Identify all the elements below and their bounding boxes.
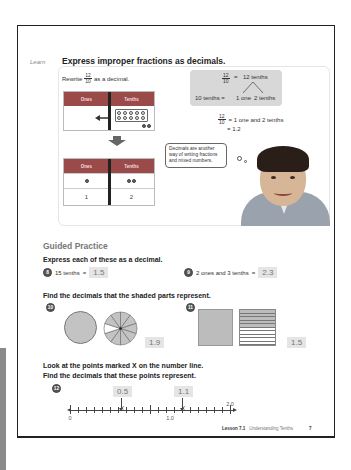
tenth-dot (129, 111, 133, 115)
hair (257, 146, 309, 172)
denominator: 10 (223, 79, 229, 84)
tenth-dot (135, 116, 139, 120)
tenth-strip (240, 342, 275, 346)
tick (214, 407, 215, 413)
tenth-dot (142, 124, 146, 128)
tenth-dot (123, 111, 127, 115)
answer-box[interactable]: 1.9 (145, 337, 164, 348)
instruction-number-line-2: Find the decimals that these points repr… (43, 372, 196, 379)
answer-box[interactable]: 1.1 (174, 386, 193, 397)
tick (174, 407, 175, 413)
thought-bubble: Decimals are another way of writing frac… (165, 143, 227, 168)
tenths-strips (239, 309, 276, 346)
smile (274, 190, 292, 196)
fraction-12-10: 12 10 (218, 114, 226, 125)
equals-sign: = (252, 270, 256, 276)
point-mark-x: X (120, 405, 124, 411)
ones-digit: 1 (64, 189, 109, 205)
header-tenths: Tenths (109, 92, 154, 106)
rewrite-suffix: as a decimal. (94, 76, 129, 82)
question-number-badge: 10 (46, 303, 55, 312)
question-8: 8 15 tenths = 1.5 (43, 267, 108, 278)
eye (271, 176, 276, 179)
whole-square (198, 309, 233, 346)
tick (78, 407, 79, 413)
tick (158, 407, 159, 413)
tick (102, 407, 103, 413)
tick (70, 405, 71, 414)
place-value-chart-top: Ones Tenths (63, 91, 155, 131)
arrow-right-icon (233, 408, 237, 412)
calc-line-2: = 1.2 (227, 126, 283, 132)
tenth-dot (129, 116, 133, 120)
question-number-badge: 8 (43, 268, 52, 277)
tick (206, 407, 207, 413)
question-number-badge: 12 (52, 384, 61, 393)
rewrite-prefix: Rewrite (62, 76, 82, 82)
tenth-dot (132, 179, 136, 183)
calculation: 12 10 = 1 one and 2 tenths = 1.2 (218, 114, 283, 132)
tick (230, 405, 231, 414)
question-text: 15 tenths (55, 270, 80, 276)
page-footer: Lesson 7.1 Understanding Tenths 7 (222, 426, 311, 431)
decimal-point-divider (108, 159, 111, 205)
tenth-dot (147, 124, 151, 128)
answer-box[interactable]: 0.5 (113, 386, 132, 397)
lesson-title: Understanding Tenths (249, 426, 293, 431)
number-bond-box: 12 10 = 12 tenths 10 tenths = 1 one 2 te… (190, 70, 282, 106)
tick (182, 407, 183, 413)
eye (290, 176, 295, 179)
fraction-12-10: 12 10 (222, 73, 230, 84)
bond-branch-left: 1 one (236, 95, 251, 101)
tenth-dot (135, 111, 139, 115)
answer-box[interactable]: 1.5 (287, 337, 306, 348)
calc-line-1: = 1 one and 2 tenths (229, 117, 284, 123)
bond-branch-right: 2 tenths (254, 95, 275, 101)
tick (94, 407, 95, 413)
denominator: 10 (85, 79, 91, 84)
tick (142, 407, 143, 413)
number-line: 0 1.0 2.0 X X (67, 403, 237, 421)
tenths-circle (103, 311, 138, 346)
rewrite-prompt: Rewrite 12 10 as a decimal. (62, 73, 129, 84)
tick (190, 407, 191, 413)
tenth-dot (127, 179, 131, 183)
bond-branches (238, 81, 268, 95)
tick-label-0: 0 (68, 415, 71, 421)
header-ones: Ones (64, 159, 109, 173)
answer-box[interactable]: 1.5 (89, 267, 108, 278)
decimal-point-divider (108, 92, 111, 130)
equals-sign: = (234, 74, 238, 80)
guided-practice-title: Guided Practice (43, 241, 108, 251)
tick (110, 407, 111, 413)
tick (166, 407, 167, 413)
tenth-dot (123, 116, 127, 120)
whole-circle (64, 311, 97, 344)
tick (118, 407, 119, 413)
boy-illustration (238, 142, 330, 226)
instruction-shaded: Find the decimals that the shaded parts … (43, 292, 211, 299)
instruction-express: Express each of these as a decimal. (43, 256, 162, 263)
question-text: 2 ones and 3 tenths (196, 270, 249, 276)
lesson-objective-title: Express improper fractions as decimals. (62, 56, 225, 66)
tick (126, 407, 127, 413)
chapter-side-tab (0, 348, 6, 470)
tenth-dot (117, 116, 121, 120)
extra-tenths-dots (142, 124, 151, 128)
lesson-number: Lesson 7.1 (222, 426, 245, 431)
one-dot (85, 179, 89, 183)
fraction-12-10: 12 10 (84, 73, 92, 84)
place-value-chart-bottom: Ones Tenths 1 2 (63, 158, 155, 206)
tenth-dot (117, 111, 121, 115)
question-number-badge: 11 (186, 303, 195, 312)
down-arrow-icon (108, 140, 126, 146)
tenth-dot (141, 116, 145, 120)
ten-tenths-grid (115, 109, 148, 122)
tick (222, 407, 223, 413)
page-number: 7 (309, 426, 312, 431)
tick-label-1: 1.0 (166, 415, 174, 421)
tick (198, 407, 199, 413)
equals-sign: = (83, 270, 87, 276)
tick (86, 407, 87, 413)
answer-box[interactable]: 2.3 (258, 267, 277, 278)
